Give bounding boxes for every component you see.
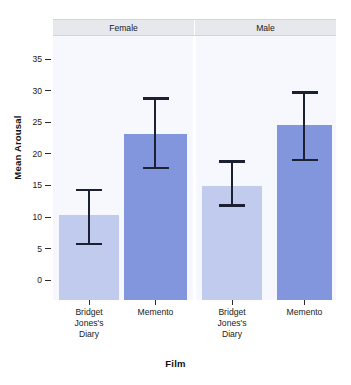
y-tick-mark (45, 59, 51, 60)
y-tick-label: 25 (32, 117, 42, 127)
x-tick-mark (89, 300, 90, 305)
error-bar-male-memento (292, 91, 318, 161)
y-tick-0: 0 (37, 274, 53, 286)
y-tick-label: 5 (37, 244, 42, 254)
y-tick-label: 10 (32, 212, 42, 222)
y-tick-mark (45, 248, 51, 249)
x-tick-mark (232, 300, 233, 305)
x-axis-title: Film (0, 358, 351, 369)
error-bar-cap-lower (143, 167, 169, 169)
error-bar-cap-lower (76, 243, 102, 245)
x-tick-label-line: Memento (116, 307, 196, 318)
error-bar-cap-upper (219, 160, 245, 162)
y-tick-label: 35 (32, 54, 42, 64)
panel-male (196, 36, 336, 300)
x-tick-label-line: Jones's (49, 318, 129, 329)
bar-chart-figure: Mean Arousal 35 30 25 20 15 10 5 0 Femal… (0, 0, 351, 385)
error-bar-cap-lower (219, 204, 245, 206)
panel-female (53, 36, 193, 300)
x-tick-label-line: Memento (265, 307, 345, 318)
y-axis: 35 30 25 20 15 10 5 0 (0, 36, 53, 300)
x-tick-mark (304, 300, 305, 305)
y-tick-20: 20 (32, 148, 53, 160)
y-tick-25: 25 (32, 116, 53, 128)
error-bar-cap-lower (292, 159, 318, 161)
y-tick-mark (45, 185, 51, 186)
y-tick-5: 5 (37, 243, 53, 255)
y-tick-30: 30 (32, 85, 53, 97)
error-bar-cap-upper (76, 189, 102, 191)
error-bar-line (231, 160, 233, 206)
y-tick-mark (45, 122, 51, 123)
x-tick-label-line: Bridget (192, 307, 272, 318)
x-tick-mark (155, 300, 156, 305)
error-bar-female-memento (143, 97, 169, 169)
y-tick-mark (45, 280, 51, 281)
error-bar-male-bridget-jones (219, 160, 245, 206)
y-tick-35: 35 (32, 53, 53, 65)
error-bar-female-bridget-jones (76, 189, 102, 245)
x-tick-label-line: Jones's (192, 318, 272, 329)
x-tick-label-memento: Memento (265, 307, 345, 318)
x-tick-label-line: Diary (49, 329, 129, 340)
error-bar-cap-upper (143, 97, 169, 99)
y-tick-mark (45, 90, 51, 91)
error-bar-cap-upper (292, 91, 318, 93)
facet-strip-female: Female (53, 20, 194, 35)
error-bar-line (88, 189, 90, 245)
y-tick-mark (45, 153, 51, 154)
panel-row (53, 36, 336, 300)
y-tick-mark (45, 217, 51, 218)
y-tick-label: 30 (32, 86, 42, 96)
x-tick-label-bridget-jones: Bridget Jones's Diary (192, 307, 272, 340)
facet-strip-male: Male (194, 20, 336, 35)
x-tick-label-memento: Memento (116, 307, 196, 318)
y-tick-label: 20 (32, 149, 42, 159)
y-tick-label: 15 (32, 180, 42, 190)
y-tick-label: 0 (37, 275, 42, 285)
error-bar-line (154, 97, 156, 169)
y-tick-15: 15 (32, 179, 53, 191)
x-tick-label-line: Diary (192, 329, 272, 340)
facet-strip-row: Female Male (53, 19, 336, 36)
error-bar-line (303, 91, 305, 161)
y-tick-10: 10 (32, 211, 53, 223)
